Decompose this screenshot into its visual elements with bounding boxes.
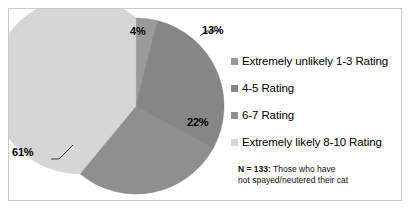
pie-value-label-22-percent: 22% (187, 116, 208, 128)
legend-item-extremely-unlikely-1-3[interactable]: Extremely unlikely 1-3 Rating (231, 54, 406, 81)
legend-item-label: Extremely unlikely 1-3 Rating (242, 54, 388, 68)
sample-size-description: Those who have (271, 164, 336, 174)
legend-swatch-icon (231, 58, 238, 65)
legend-item-label: 6-7 Rating (242, 108, 294, 122)
sample-size-description-line2: not spayed/neutered their cat (238, 175, 348, 185)
legend-item-extremely-likely-8-10[interactable]: Extremely likely 8-10 Rating (231, 135, 406, 162)
pie-value-label-13-percent: 13% (202, 24, 223, 36)
legend-swatch-icon (231, 85, 238, 92)
legend-item-4-5-rating[interactable]: 4-5 Rating (231, 81, 406, 108)
legend-swatch-icon (231, 112, 238, 119)
pie-value-label-4-percent: 4% (130, 25, 146, 37)
legend-swatch-icon (231, 139, 238, 146)
pie-value-label-61-percent: 61% (12, 146, 33, 158)
sample-size-value: N = 133: (238, 164, 271, 174)
legend-item-6-7-rating[interactable]: 6-7 Rating (231, 108, 406, 135)
legend-item-label: Extremely likely 8-10 Rating (242, 135, 382, 149)
sample-size-note: N = 133: Those who have not spayed/neute… (238, 164, 348, 186)
chart-legend: Extremely unlikely 1-3 Rating 4-5 Rating… (231, 54, 406, 162)
pie-chart: 4% 13% 22% 61% (9, 9, 229, 202)
legend-item-label: 4-5 Rating (242, 81, 294, 95)
pie-svg (9, 9, 229, 202)
